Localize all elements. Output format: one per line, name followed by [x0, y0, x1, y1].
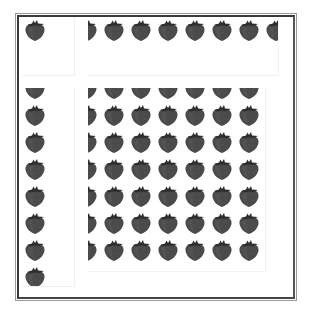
strawberry-icon	[23, 157, 47, 181]
strawberry-icon	[129, 184, 153, 208]
strawberry-icon	[129, 157, 153, 181]
strawberry-icon	[183, 88, 207, 100]
strawberry-icon	[183, 130, 207, 154]
strawberry-icon	[129, 130, 153, 154]
strawberry-icon	[156, 211, 180, 235]
panel-top-left	[22, 17, 75, 76]
panel-bottom-right	[88, 88, 266, 272]
strawberry-icon	[237, 184, 261, 208]
strawberry-icon	[23, 130, 47, 154]
strawberry-icon	[129, 238, 153, 262]
strawberry-icon	[237, 103, 261, 127]
strawberry-icon	[23, 238, 47, 262]
strawberry-icon	[102, 184, 126, 208]
strawberry-icon	[102, 103, 126, 127]
strawberry-icon	[23, 88, 47, 100]
strawberry-icon	[210, 184, 234, 208]
strawberry-icon	[88, 103, 99, 127]
strawberry-icon	[237, 130, 261, 154]
strawberry-icon	[129, 88, 153, 100]
strawberry-icon	[129, 103, 153, 127]
strawberry-icon	[23, 103, 47, 127]
strawberry-icon	[156, 130, 180, 154]
strawberry-icon	[23, 265, 47, 287]
strawberry-icon	[102, 130, 126, 154]
strawberry-icon	[183, 157, 207, 181]
strawberry-icon	[102, 211, 126, 235]
strawberry-icon	[102, 18, 126, 42]
strawberry-icon	[183, 211, 207, 235]
strawberry-icon	[102, 88, 126, 100]
strawberry-icon	[237, 238, 261, 262]
strawberry-icon	[88, 157, 99, 181]
strawberry-icon	[210, 18, 234, 42]
strawberry-icon	[183, 18, 207, 42]
strawberry-icon	[210, 88, 234, 100]
strawberry-icon	[88, 184, 99, 208]
strawberry-icon	[264, 18, 279, 42]
strawberry-icon	[23, 211, 47, 235]
strawberry-icon	[129, 18, 153, 42]
strawberry-icon	[88, 18, 99, 42]
strawberry-icon	[156, 103, 180, 127]
strawberry-icon	[156, 18, 180, 42]
strawberry-icon	[156, 184, 180, 208]
strawberry-icon	[237, 18, 261, 42]
strawberry-icon	[156, 238, 180, 262]
strawberry-icon	[210, 103, 234, 127]
strawberry-icon	[23, 184, 47, 208]
strawberry-icon	[210, 211, 234, 235]
strawberry-icon	[210, 130, 234, 154]
strawberry-icon	[23, 18, 47, 42]
strawberry-icon	[88, 211, 99, 235]
panel-top-right	[88, 17, 279, 76]
strawberry-icon	[129, 211, 153, 235]
strawberry-icon	[210, 238, 234, 262]
strawberry-icon	[237, 211, 261, 235]
strawberry-icon	[156, 88, 180, 100]
strawberry-icon	[102, 238, 126, 262]
strawberry-icon	[88, 238, 99, 262]
strawberry-icon	[237, 88, 261, 100]
strawberry-icon	[237, 157, 261, 181]
strawberry-icon	[183, 103, 207, 127]
strawberry-icon	[183, 238, 207, 262]
strawberry-icon	[88, 130, 99, 154]
strawberry-icon	[156, 157, 180, 181]
strawberry-icon	[102, 157, 126, 181]
panel-bottom-left	[22, 88, 75, 287]
strawberry-icon	[183, 184, 207, 208]
strawberry-icon	[210, 157, 234, 181]
strawberry-icon	[88, 88, 99, 100]
